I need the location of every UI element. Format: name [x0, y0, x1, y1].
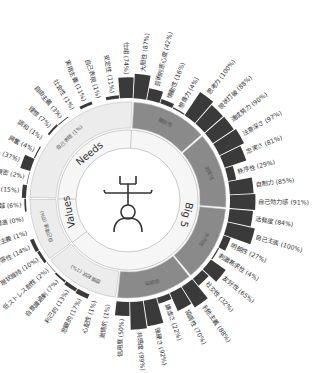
svg-text:共感度 (99%): 共感度 (99%): [135, 332, 146, 371]
svg-text:仕組 (74%): 仕組 (74%): [122, 42, 131, 75]
sunburst-chart: 開放性誠実性外向性協調性感情起伏 (1%)自己増進 (0%)自己表現 (1%) …: [0, 0, 324, 373]
svg-text:挑戦 (15%): 挑戦 (15%): [0, 184, 20, 195]
svg-text:注意深さ (97%): 注意深さ (97%): [241, 109, 284, 138]
svg-text:大胆性 (87%): 大胆性 (87%): [139, 33, 151, 72]
svg-text:心配性 (1%): 心配性 (1%): [80, 299, 98, 334]
svg-text:活発度 (84%): 活発度 (84%): [255, 215, 294, 229]
svg-text:好奇心 (37%): 好奇心 (37%): [0, 143, 21, 164]
svg-text:強硬さ (92%): 強硬さ (92%): [153, 327, 169, 366]
svg-text:協調性 (70%): 協調性 (70%): [183, 308, 208, 346]
svg-text:自己超越 (6%): 自己超越 (6%): [0, 201, 22, 211]
svg-text:自己主張 (100%): 自己主張 (100%): [255, 233, 304, 254]
svg-text:忠実さ (81%): 忠実さ (81%): [245, 134, 284, 156]
svg-text:安定性 (11%): 安定性 (11%): [102, 54, 116, 93]
svg-text:自制力 (85%): 自制力 (85%): [255, 176, 294, 188]
svg-text:信用度 (50%): 信用度 (50%): [116, 319, 126, 358]
svg-text:自己効力感 (91%): 自己効力感 (91%): [258, 198, 309, 207]
svg-text:自己増進 (0%): 自己増進 (0%): [0, 215, 24, 230]
svg-text:興奮 (4%): 興奮 (4%): [7, 133, 36, 153]
svg-text:親密 (2%): 親密 (2%): [0, 167, 25, 181]
svg-text:激情的 (1%): 激情的 (1%): [98, 303, 112, 339]
